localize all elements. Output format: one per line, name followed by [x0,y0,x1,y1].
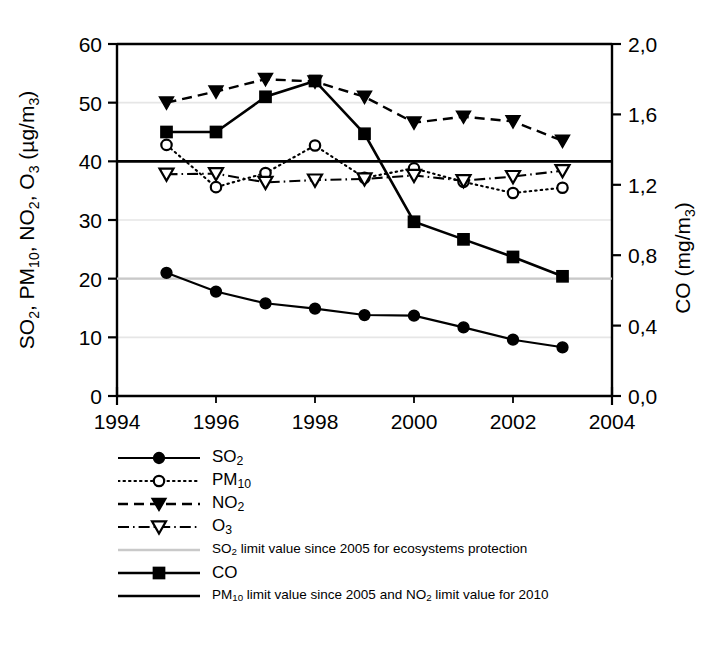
data-point-so2 [557,342,568,353]
y-tick-label-left: 40 [79,150,102,173]
pm10-key-icon [118,470,200,492]
no2-key-icon [118,493,200,515]
data-point-co [458,234,469,245]
x-tick-label: 2002 [490,410,537,433]
data-point-so2 [260,298,271,309]
y-tick-label-left: 0 [90,385,102,408]
y-axis-title-right: CO (mg/m3) [671,202,698,314]
legend-item-pm10-limit: PM10 limit value since 2005 and NO2 limi… [118,584,678,607]
data-point-co [161,126,172,137]
legend-item-so2: SO2 [118,446,678,469]
data-point-so2 [211,286,222,297]
y-tick-label-right: 1,2 [628,174,657,197]
data-point-co [557,271,568,282]
legend-label: O3 [212,517,232,536]
legend-label: SO2 [212,448,243,467]
y-tick-label-right: 0,4 [628,315,658,338]
legend-item-no2: NO2 [118,492,678,515]
chart-figure: 01020304050600,00,40,81,21,62,0199419961… [0,0,720,648]
data-point-so2 [458,322,469,333]
y-tick-label-right: 0,8 [628,244,657,267]
data-point-pm10 [211,182,221,192]
data-point-co [260,91,271,102]
pm10-limit-key-icon [118,585,200,607]
data-point-o3 [506,171,520,183]
data-point-co [359,128,370,139]
data-point-pm10 [310,140,320,150]
x-tick-label: 1998 [292,410,339,433]
data-point-no2 [556,135,570,147]
data-point-so2 [310,303,321,314]
x-tick-label: 2004 [589,410,636,433]
o3-key-icon [118,516,200,538]
data-point-pm10 [161,140,171,150]
y-tick-label-left: 20 [79,268,102,291]
legend-label: SO2 limit value since 2005 for ecosystem… [212,542,527,557]
legend-label: NO2 [212,494,244,513]
legend-label: PM10 limit value since 2005 and NO2 limi… [212,588,549,603]
chart-legend: SO2PM10NO2O3SO2 limit value since 2005 f… [118,446,678,607]
data-point-co [210,126,221,137]
y-tick-label-left: 10 [79,326,102,349]
data-point-no2 [209,86,223,98]
so2-key-icon [118,447,200,469]
legend-item-co: CO [118,561,678,584]
x-tick-label: 2000 [391,410,438,433]
x-tick-label: 1994 [94,410,141,433]
y-tick-label-left: 50 [79,92,102,115]
data-point-so2 [508,334,519,345]
y-tick-label-right: 1,6 [628,103,657,126]
data-series-group [160,74,570,353]
data-point-co [408,216,419,227]
y-axis-title-left: SO2, PM10, NO2, O3 (µg/m3) [15,91,42,349]
y-tick-label-left: 60 [79,33,102,56]
data-point-so2 [161,267,172,278]
data-point-pm10 [508,188,518,198]
legend-item-so2-limit: SO2 limit value since 2005 for ecosystem… [118,538,678,561]
legend-label: PM10 [212,471,251,490]
data-point-no2 [358,91,372,103]
data-point-co [507,251,518,262]
x-tick-label: 1996 [193,410,240,433]
data-point-co [309,75,320,86]
legend-item-o3: O3 [118,515,678,538]
y-tick-label-right: 0,0 [628,385,657,408]
data-point-so2 [359,310,370,321]
legend-item-pm10: PM10 [118,469,678,492]
so2-limit-key-icon [118,539,200,561]
data-point-so2 [409,310,420,321]
data-point-pm10 [557,183,567,193]
legend-label: CO [212,564,238,581]
y-tick-label-left: 30 [79,209,102,232]
y-tick-label-right: 2,0 [628,33,657,56]
co-key-icon [118,562,200,584]
